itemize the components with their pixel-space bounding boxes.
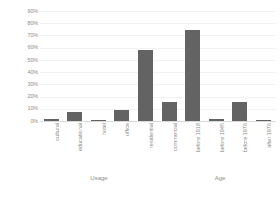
y-axis-tick-label: 20% — [4, 93, 38, 99]
x-axis-label-educational: educational — [77, 123, 83, 151]
x-axis-labels: cultural educational hotel office reside… — [40, 123, 276, 167]
group-label-usage: Usage — [40, 175, 158, 182]
bar-educational — [67, 112, 82, 121]
x-axis-label-before-1918: before 1918 — [195, 123, 201, 152]
bar-series — [40, 11, 276, 121]
bar-commercial — [162, 102, 177, 121]
x-axis-label-residential: residential — [148, 123, 154, 148]
y-axis-tick-label: 10% — [4, 105, 38, 111]
x-axis-label-before-1945: before 1945 — [219, 123, 225, 152]
y-axis-tick-label: 80% — [4, 20, 38, 26]
y-axis-tick-label: 90% — [4, 8, 38, 14]
bar-office — [114, 110, 129, 121]
y-axis-tick-label: 0% — [4, 118, 38, 124]
y-axis-tick-label: 40% — [4, 69, 38, 75]
x-axis-label-commercial: commercial — [172, 123, 178, 151]
y-axis-tick-label: 50% — [4, 57, 38, 63]
y-axis-tick-label: 60% — [4, 44, 38, 50]
bar-before-1945 — [209, 119, 224, 121]
group-label-age: Age — [180, 175, 260, 182]
x-axis-label-cultural: cultural — [54, 123, 60, 141]
bar-before-1976 — [232, 102, 247, 121]
y-axis: 90% 80% 70% 60% 50% 40% 30% 20% 10% 0% — [0, 0, 38, 197]
bar-chart: 90% 80% 70% 60% 50% 40% 30% 20% 10% 0% — [0, 0, 280, 197]
x-axis-label-after-1976: after 1976 — [266, 123, 272, 148]
x-axis-label-office: office — [124, 123, 130, 136]
x-axis-label-hotel: hotel — [101, 123, 107, 135]
plot-area — [40, 11, 276, 121]
y-axis-tick-label: 70% — [4, 32, 38, 38]
bar-before-1918 — [185, 30, 200, 121]
bar-after-1976 — [256, 120, 271, 121]
x-axis-label-before-1976: before 1976 — [242, 123, 248, 152]
bar-cultural — [44, 119, 59, 121]
y-axis-tick-label: 30% — [4, 81, 38, 87]
bar-hotel — [91, 120, 106, 121]
bar-residential — [138, 50, 153, 121]
